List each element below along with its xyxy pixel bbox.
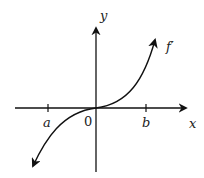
x-axis-label: x [189, 116, 197, 131]
graph-diagram: y x 0 a b f′ [0, 0, 204, 178]
y-axis-label: y [99, 8, 108, 23]
tick-b-label: b [142, 115, 150, 130]
tick-a-label: a [43, 115, 51, 130]
curve-f-prime [33, 40, 155, 166]
curve-label: f′ [165, 39, 174, 54]
origin-label: 0 [84, 114, 92, 129]
